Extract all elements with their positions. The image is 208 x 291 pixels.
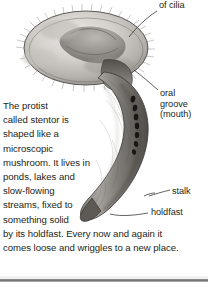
caption-line: by its holdfast. Every now and again it [3,227,205,241]
caption-line: comes loose and wriggles to a new place. [3,241,205,255]
caption-line: The protist [3,99,205,113]
stentor-figure: of cilia oral groove (mouth) stalk holdf… [0,0,208,291]
caption-line: ponds, lakes and [3,170,205,184]
caption-text: The protist called stentor is shaped lik… [3,99,205,255]
label-ring-of-cilia: of cilia [159,0,185,11]
caption-line: shaped like a [3,127,205,141]
caption-line: mushroom. It lives in [3,156,205,170]
caption-line: something solid [3,213,205,227]
horizontal-rule [0,279,208,282]
caption-line: streams, fixed to [3,198,205,212]
label-oral-line-1: oral [160,88,175,98]
caption-line: microscopic [3,142,205,156]
caption-line: slow-flowing [3,184,205,198]
caption-line: called stentor is [3,113,205,127]
leader-oral [134,70,158,90]
